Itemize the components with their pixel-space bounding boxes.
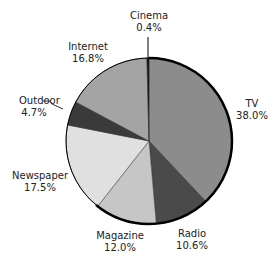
label-tv-pct: 38.0%: [232, 110, 272, 122]
label-cinema-name: Cinema: [126, 10, 172, 22]
label-tv: TV 38.0%: [232, 98, 272, 122]
label-cinema: Cinema 0.4%: [126, 10, 172, 34]
label-internet: Internet 16.8%: [64, 41, 112, 65]
label-newspaper-pct: 17.5%: [12, 182, 68, 194]
label-magazine-name: Magazine: [94, 230, 146, 242]
label-radio-name: Radio: [172, 228, 212, 240]
label-outdoor: Outdoor 4.7%: [19, 95, 49, 119]
label-newspaper-name: Newspaper: [12, 170, 68, 182]
label-radio-pct: 10.6%: [172, 240, 212, 252]
label-magazine-pct: 12.0%: [94, 242, 146, 254]
label-internet-name: Internet: [64, 41, 112, 53]
label-newspaper: Newspaper 17.5%: [12, 170, 68, 194]
label-internet-pct: 16.8%: [64, 53, 112, 65]
label-tv-name: TV: [232, 98, 272, 110]
label-radio: Radio 10.6%: [172, 228, 212, 252]
label-outdoor-name: Outdoor: [19, 95, 49, 107]
label-outdoor-pct: 4.7%: [19, 107, 49, 119]
label-magazine: Magazine 12.0%: [94, 230, 146, 254]
label-cinema-pct: 0.4%: [126, 22, 172, 34]
pie-chart: [0, 0, 273, 260]
